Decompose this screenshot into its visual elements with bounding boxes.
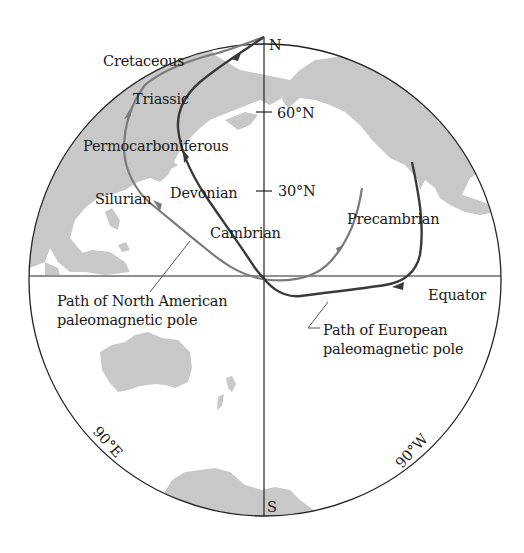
australia-landmass: [100, 332, 192, 392]
period-label-devonian: Devonian: [170, 186, 238, 201]
period-label-permocarboniferous: Permocarboniferous: [83, 139, 229, 154]
caption-line: paleomagnetic pole: [57, 311, 227, 330]
period-label-cambrian: Cambrian: [210, 226, 281, 241]
period-label-triassic: Triassic: [133, 92, 189, 107]
north-american-leader-line: [150, 241, 190, 292]
new-zealand-landmass: [217, 376, 236, 410]
north-label: N: [269, 38, 282, 53]
caption-line: paleomagnetic pole: [323, 340, 463, 359]
equator-label: Equator: [428, 288, 486, 303]
period-label-cretaceous: Cretaceous: [103, 54, 184, 69]
caption-line: Path of European: [323, 321, 463, 340]
period-label-silurian: Silurian: [95, 192, 152, 207]
caption-line: Path of North American: [57, 292, 227, 311]
south-label: S: [267, 500, 277, 515]
period-label-precambrian: Precambrian: [347, 212, 439, 227]
map-canvas: [0, 0, 524, 553]
european-path-caption: Path of European paleomagnetic pole: [323, 321, 463, 359]
north-american-path-caption: Path of North American paleomagnetic pol…: [57, 292, 227, 330]
polar-wander-diagram: N S Equator 90°E 90°W 60°N 30°N Cretaceo…: [0, 0, 524, 553]
latitude-60n-label: 60°N: [277, 106, 315, 121]
latitude-30n-label: 30°N: [278, 184, 316, 199]
